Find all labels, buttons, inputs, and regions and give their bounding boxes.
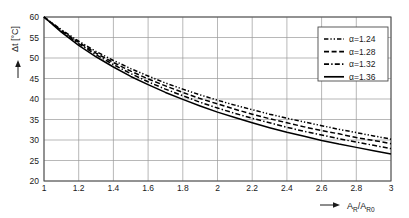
legend-label-1-28: α=1.28 bbox=[349, 47, 376, 57]
y-tick-label: 60 bbox=[30, 12, 40, 22]
x-tick-label: 2.4 bbox=[281, 183, 293, 193]
legend-label-1-32: α=1.32 bbox=[349, 59, 376, 69]
y-tick-label: 20 bbox=[30, 176, 40, 186]
y-tick-label: 45 bbox=[30, 74, 40, 84]
y-tick-label: 40 bbox=[30, 94, 40, 104]
delta-t-vs-area-ratio-chart: 11.21.41.61.822.22.42.62.83 202530354045… bbox=[0, 0, 409, 218]
x-tick-label: 1.6 bbox=[142, 183, 154, 193]
y-tick-label: 55 bbox=[30, 33, 40, 43]
y-tick-label: 35 bbox=[30, 115, 40, 125]
y-axis-title-text: Δt [°C] bbox=[10, 26, 20, 52]
x-tick-label: 2.2 bbox=[246, 183, 258, 193]
x-tick-label: 1 bbox=[42, 183, 47, 193]
x-tick-label: 2.8 bbox=[350, 183, 362, 193]
legend-label-1-36: α=1.36 bbox=[349, 72, 376, 82]
legend-label-1-24: α=1.24 bbox=[349, 34, 376, 44]
y-axis-tick-labels: 202530354045505560 bbox=[30, 12, 40, 186]
legend: α=1.24α=1.28α=1.32α=1.36 bbox=[318, 27, 388, 82]
x-tick-label: 2 bbox=[215, 183, 220, 193]
x-tick-label: 1.2 bbox=[73, 183, 85, 193]
x-tick-label: 2.6 bbox=[316, 183, 328, 193]
y-tick-label: 50 bbox=[30, 53, 40, 63]
chart-figure: 11.21.41.61.822.22.42.62.83 202530354045… bbox=[0, 0, 409, 218]
y-tick-label: 30 bbox=[30, 135, 40, 145]
x-tick-label: 3 bbox=[389, 183, 394, 193]
x-tick-label: 1.8 bbox=[177, 183, 189, 193]
y-tick-label: 25 bbox=[30, 156, 40, 166]
x-tick-label: 1.4 bbox=[107, 183, 119, 193]
